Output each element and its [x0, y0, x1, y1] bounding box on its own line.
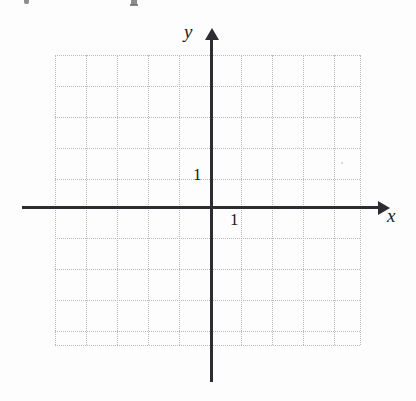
grid-line-horizontal-6 [55, 238, 360, 240]
page-speck [341, 162, 343, 164]
grid-line-horizontal-2 [55, 117, 360, 119]
x-axis-label: x [387, 206, 395, 225]
grid-line-vertical-10 [360, 55, 362, 345]
grid-line-horizontal-8 [55, 300, 360, 302]
grid-line-horizontal-0 [55, 55, 360, 57]
y-axis-arrow-icon [205, 28, 219, 40]
x-axis-tick-label-1: 1 [230, 211, 239, 228]
grid-line-horizontal-7 [55, 269, 360, 271]
x-axis-line [22, 206, 382, 209]
y-axis-label: y [184, 22, 192, 41]
grid-line-horizontal-3 [55, 148, 360, 150]
grid [55, 55, 360, 345]
grid-line-horizontal-1 [55, 86, 360, 88]
scan-artifact-mark [130, 4, 138, 6]
coordinate-grid-figure: x y 1 1 [0, 0, 416, 401]
grid-line-horizontal-10 [55, 345, 360, 347]
scan-artifact-mark [24, 0, 29, 4]
grid-line-horizontal-9 [55, 331, 360, 333]
y-axis-line [210, 38, 213, 382]
y-axis-tick-label-1: 1 [193, 166, 202, 183]
grid-line-horizontal-4 [55, 179, 360, 181]
